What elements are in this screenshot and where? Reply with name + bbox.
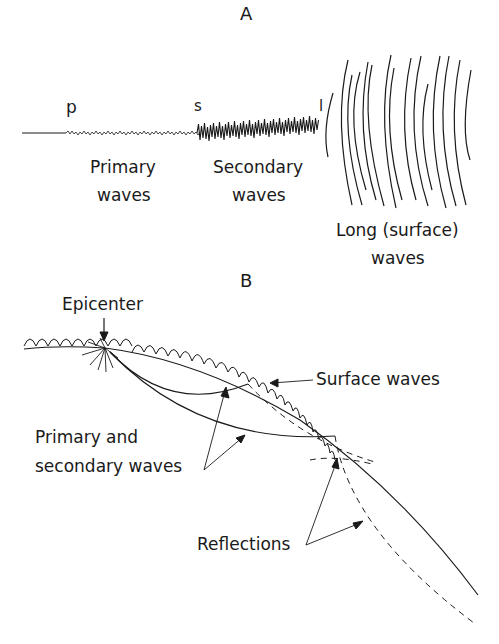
long-waves-label-line2: waves xyxy=(371,248,425,268)
surface-wave-strokes xyxy=(326,55,471,208)
epicenter-label: Epicenter xyxy=(62,294,143,314)
primary-waves-label-line1: Primary xyxy=(90,157,156,177)
panel-b-letter: B xyxy=(240,271,252,291)
l-wave-marker: l xyxy=(319,96,323,116)
s-wave-marker: s xyxy=(194,96,202,116)
p-wave-marker: p xyxy=(66,97,77,117)
long-waves-label-line1: Long (surface) xyxy=(336,220,459,240)
panel-a-letter: A xyxy=(240,4,252,24)
pswaves-label-line1: Primary and xyxy=(35,427,138,447)
secondary-waves-label-line2: waves xyxy=(232,185,286,205)
secondary-waves-label-line1: Secondary xyxy=(213,157,303,177)
surface-waves-label: Surface waves xyxy=(316,369,440,389)
primary-waves-label-line2: waves xyxy=(97,185,151,205)
pswaves-label-line2: secondary waves xyxy=(35,456,182,476)
reflections-label: Reflections xyxy=(197,534,290,554)
seismogram-trace xyxy=(22,116,319,141)
